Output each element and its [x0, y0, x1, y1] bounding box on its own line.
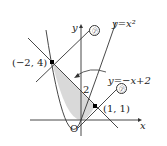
- marker-a-upper: ㋐: [89, 25, 100, 36]
- marker-a-lower: ㋐: [116, 83, 127, 94]
- origin-label: O: [70, 124, 78, 134]
- point-1-1: [93, 104, 97, 108]
- label-pointer-arrow: [76, 70, 106, 76]
- point-label-neg2-4: (−2, 4): [12, 58, 47, 68]
- y-axis-label: y: [72, 23, 78, 33]
- point-label-1-1: (1, 1): [103, 104, 130, 114]
- y-intercept-label: 2: [83, 85, 89, 95]
- y-axis-arrow-icon: [79, 24, 83, 28]
- line-label: y=−x+2: [108, 76, 151, 86]
- point-neg2-4: [50, 60, 54, 64]
- parabola-label: y=x²: [112, 19, 136, 29]
- x-axis-label: x: [140, 121, 146, 131]
